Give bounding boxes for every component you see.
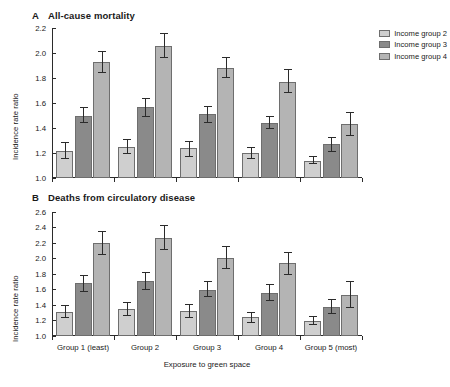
error-bar-cap-top	[204, 106, 212, 107]
x-axis-title: Exposure to green space	[164, 360, 251, 369]
legend-label-income-group-3: Income group 3	[394, 40, 447, 49]
error-bar-stem	[226, 57, 227, 78]
panel-b-title: BDeaths from circulatory disease	[32, 192, 195, 203]
bar	[279, 82, 296, 178]
y-axis-tick-label: 1.6	[35, 98, 46, 109]
panel-b-plot-area: 1.01.21.41.61.82.02.22.42.6	[52, 212, 362, 336]
y-axis-tick-label: 1.0	[35, 331, 46, 342]
error-bar-cap-bottom	[98, 254, 106, 255]
x-axis-tick-mark	[176, 336, 177, 340]
legend-label-income-group-2: Income group 2	[394, 29, 447, 38]
error-bar-cap-bottom	[328, 151, 336, 152]
bar	[199, 114, 216, 178]
panel-b: BDeaths from circulatory disease Inciden…	[0, 190, 450, 387]
legend-swatch-income-group-4	[379, 53, 390, 60]
y-axis-tick-label: 2.2	[35, 238, 46, 249]
error-bar-cap-bottom	[185, 156, 193, 157]
error-bar-cap-bottom	[247, 158, 255, 159]
error-bar-stem	[65, 142, 66, 160]
error-bar-cap-bottom	[266, 128, 274, 129]
panel-a-title: AAll-cause mortality	[32, 10, 135, 21]
bar	[93, 62, 110, 178]
x-axis-tick-mark	[52, 178, 53, 182]
error-bar-stem	[83, 275, 84, 292]
error-bar-stem	[127, 139, 128, 154]
y-axis-tick-label: 1.8	[35, 73, 46, 84]
error-bar-cap-bottom	[160, 249, 168, 250]
error-bar-cap-bottom	[98, 72, 106, 73]
error-bar-cap-top	[222, 246, 230, 247]
x-axis-tick-mark	[300, 336, 301, 340]
error-bar-cap-top	[61, 305, 69, 306]
y-axis-tick-label: 1.8	[35, 269, 46, 280]
bar-group	[180, 28, 234, 178]
x-axis-tick-mark	[114, 336, 115, 340]
y-axis-tick-label: 1.6	[35, 284, 46, 295]
legend: Income group 2 Income group 3 Income gro…	[379, 28, 447, 63]
x-axis-tick-mark	[52, 336, 53, 340]
bar-group	[304, 212, 358, 336]
error-bar-cap-top	[123, 139, 131, 140]
bar	[155, 46, 172, 179]
y-axis-tick-label: 2.0	[35, 48, 46, 59]
x-axis-category-label: Group 3	[193, 343, 221, 352]
error-bar-cap-top	[185, 304, 193, 305]
y-axis-tick-label: 2.6	[35, 207, 46, 218]
error-bar-cap-bottom	[309, 163, 317, 164]
y-axis-tick-label: 1.2	[35, 315, 46, 326]
error-bar-cap-top	[98, 231, 106, 232]
panel-a-letter: A	[32, 10, 48, 21]
bar-group	[118, 28, 172, 178]
error-bar-cap-bottom	[284, 274, 292, 275]
error-bar-stem	[288, 252, 289, 275]
bar-group	[56, 28, 110, 178]
legend-item: Income group 3	[379, 40, 447, 50]
x-axis-tick-mark	[362, 178, 363, 182]
bar-group	[242, 212, 296, 336]
figure-green-space-mortality: AAll-cause mortality Incidence rate rati…	[0, 0, 450, 387]
panel-b-letter: B	[32, 192, 48, 203]
error-bar-stem	[145, 272, 146, 289]
error-bar-stem	[189, 141, 190, 157]
bar	[217, 258, 234, 336]
error-bar-cap-bottom	[222, 268, 230, 269]
error-bar-cap-bottom	[266, 300, 274, 301]
error-bar-cap-bottom	[142, 289, 150, 290]
error-bar-stem	[288, 69, 289, 93]
panel-a: AAll-cause mortality Incidence rate rati…	[0, 0, 450, 192]
error-bar-cap-bottom	[284, 92, 292, 93]
error-bar-cap-top	[309, 316, 317, 317]
error-bar-cap-top	[222, 57, 230, 58]
error-bar-cap-top	[328, 137, 336, 138]
bar	[261, 123, 278, 178]
error-bar-stem	[164, 225, 165, 250]
error-bar-stem	[226, 246, 227, 269]
error-bar-cap-bottom	[247, 322, 255, 323]
bar-group	[180, 212, 234, 336]
error-bar-cap-top	[142, 272, 150, 273]
x-axis-tick-mark	[362, 336, 363, 340]
error-bar-cap-top	[284, 252, 292, 253]
legend-label-income-group-4: Income group 4	[394, 52, 447, 61]
error-bar-cap-top	[328, 299, 336, 300]
error-bar-cap-top	[266, 116, 274, 117]
error-bar-stem	[350, 112, 351, 136]
error-bar-cap-bottom	[61, 158, 69, 159]
error-bar-cap-bottom	[346, 307, 354, 308]
error-bar-cap-top	[160, 33, 168, 34]
error-bar-cap-bottom	[185, 317, 193, 318]
error-bar-cap-bottom	[123, 153, 131, 154]
bar-group	[56, 212, 110, 336]
panel-b-title-text: Deaths from circulatory disease	[48, 192, 195, 203]
bar-group	[304, 28, 358, 178]
error-bar-stem	[331, 299, 332, 315]
error-bar-cap-bottom	[309, 324, 317, 325]
error-bar-cap-top	[284, 69, 292, 70]
y-axis-tick-label: 1.4	[35, 123, 46, 134]
bar-group	[242, 28, 296, 178]
error-bar-stem	[145, 98, 146, 117]
error-bar-cap-top	[61, 142, 69, 143]
legend-item: Income group 2	[379, 28, 447, 38]
x-axis-tick-mark	[238, 336, 239, 340]
error-bar-cap-top	[185, 141, 193, 142]
